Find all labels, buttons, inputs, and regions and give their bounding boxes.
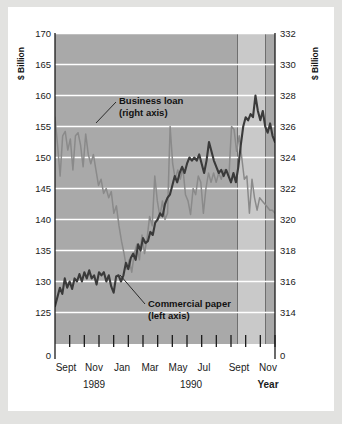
y-axis-right-unit-label: $ Billion <box>310 47 320 80</box>
x-group-label-1989: 1989 <box>83 379 106 390</box>
y-axis-right-labels: 332 330 328 326 324 322 320 318 316 314 … <box>280 28 296 361</box>
y-axis-left-unit-label: $ Billion <box>16 47 26 80</box>
y-left-tick-10: 0 <box>46 350 51 361</box>
y-left-tick-0: 170 <box>35 28 51 39</box>
y-right-tick-0: 332 <box>280 28 296 39</box>
y-left-tick-4: 150 <box>35 152 51 163</box>
y-right-tick-2: 328 <box>280 90 296 101</box>
commercial-paper-annotation-line2: (left axis) <box>148 310 190 321</box>
y-right-tick-8: 316 <box>280 276 296 287</box>
chart-canvas: 170 165 160 155 150 145 140 135 130 125 … <box>8 7 334 411</box>
x-tick-label-6: Sept <box>229 362 250 373</box>
x-tick-label-0: Sept <box>56 362 77 373</box>
y-right-tick-9: 314 <box>280 307 296 318</box>
figure-root: 170 165 160 155 150 145 140 135 130 125 … <box>0 0 342 424</box>
y-left-tick-5: 145 <box>35 183 51 194</box>
y-right-tick-1: 330 <box>280 59 296 70</box>
y-left-tick-7: 135 <box>35 245 51 256</box>
y-left-tick-9: 125 <box>35 307 51 318</box>
y-left-tick-8: 130 <box>35 276 51 287</box>
x-tick-label-7: Nov <box>259 362 277 373</box>
commercial-paper-annotation-line1: Commercial paper <box>148 298 231 309</box>
x-axis-title-year: Year <box>257 379 278 390</box>
y-left-tick-1: 165 <box>35 59 51 70</box>
y-right-tick-6: 320 <box>280 214 296 225</box>
x-tick-label-1: Nov <box>85 362 103 373</box>
y-right-tick-5: 322 <box>280 183 296 194</box>
x-tick-label-5: Jul <box>198 362 211 373</box>
x-tick-label-3: Mar <box>141 362 159 373</box>
x-group-label-1990: 1990 <box>180 379 203 390</box>
business-loan-annotation-line1: Business loan <box>119 95 184 106</box>
y-right-tick-10: 0 <box>280 350 285 361</box>
business-loan-annotation-line2: (right axis) <box>119 107 168 118</box>
y-axis-left-labels: 170 165 160 155 150 145 140 135 130 125 … <box>35 28 51 361</box>
y-right-tick-4: 324 <box>280 152 296 163</box>
y-left-tick-3: 155 <box>35 121 51 132</box>
y-left-tick-6: 140 <box>35 214 51 225</box>
x-tick-label-4: May <box>169 362 188 373</box>
chart-card: 170 165 160 155 150 145 140 135 130 125 … <box>8 7 334 411</box>
x-axis-labels: Sept Nov Jan Mar May Jul Sept Nov <box>56 362 277 373</box>
y-left-tick-2: 160 <box>35 90 51 101</box>
y-right-tick-7: 318 <box>280 245 296 256</box>
x-tick-label-2: Jan <box>114 362 130 373</box>
y-right-tick-3: 326 <box>280 121 296 132</box>
